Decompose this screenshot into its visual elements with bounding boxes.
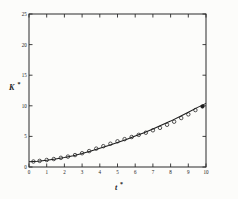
data-point: [165, 123, 169, 127]
x-tick-label: 1: [45, 169, 48, 175]
x-tick-label: 2: [63, 169, 66, 175]
x-axis-ticks-bottom: [29, 164, 206, 168]
x-tick-label: 5: [116, 169, 119, 175]
y-axis-title: K *: [8, 81, 21, 93]
y-tick-label: 15: [22, 72, 28, 78]
data-point: [172, 120, 176, 124]
x-axis-ticks-top: [29, 14, 206, 18]
y-tick-label: 0: [24, 164, 27, 170]
data-point-markers: [32, 105, 205, 164]
y-axis-ticks-right: [203, 14, 207, 167]
chart-svg: 012345678910 0510152025 K * t *: [0, 0, 238, 199]
x-axis-title-base: t: [115, 183, 118, 192]
x-tick-label: 9: [187, 169, 190, 175]
y-tick-label: 10: [22, 103, 28, 109]
x-axis-title-superscript: *: [120, 181, 123, 187]
x-tick-label: 0: [28, 169, 31, 175]
data-point: [179, 116, 183, 120]
data-point: [187, 113, 191, 117]
figure-canvas: 012345678910 0510152025 K * t *: [0, 0, 238, 199]
x-tick-label: 7: [152, 169, 155, 175]
x-tick-label: 6: [134, 169, 137, 175]
y-tick-label: 5: [24, 133, 27, 139]
data-point: [201, 105, 205, 109]
data-point: [158, 126, 162, 130]
model-curve-line: [29, 103, 206, 161]
y-axis-title-superscript: *: [18, 81, 21, 87]
y-axis-title-base: K: [8, 83, 15, 92]
x-tick-label: 3: [81, 169, 84, 175]
x-tick-label: 8: [169, 169, 172, 175]
y-tick-label: 25: [22, 11, 28, 17]
x-axis-title: t *: [115, 181, 123, 193]
y-tick-label: 20: [22, 42, 28, 48]
y-axis-ticks-left: [29, 14, 33, 167]
plot-frame-box: [29, 14, 206, 167]
x-tick-label: 10: [203, 169, 209, 175]
x-tick-label: 4: [99, 169, 102, 175]
x-axis-tick-labels: 012345678910: [28, 169, 209, 175]
y-axis-tick-labels: 0510152025: [22, 11, 28, 170]
